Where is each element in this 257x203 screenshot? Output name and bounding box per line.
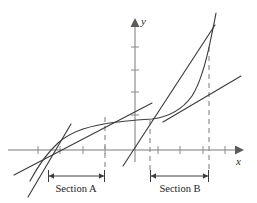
tangent-line-right bbox=[163, 76, 241, 122]
section-b-label: Section B bbox=[159, 183, 200, 194]
secant-lines-figure: Section A Section B y x bbox=[0, 0, 257, 203]
section-a-right-arrowhead bbox=[99, 173, 104, 179]
section-b-left-arrowhead bbox=[151, 173, 156, 179]
dashed-guides bbox=[105, 47, 209, 170]
section-a-left-arrowhead bbox=[49, 173, 54, 179]
y-axis-arrowhead bbox=[131, 18, 140, 27]
section-a-annotation: Section A bbox=[49, 170, 105, 194]
function-curve bbox=[30, 13, 216, 181]
section-b-right-arrowhead bbox=[203, 173, 208, 179]
section-b-annotation: Section B bbox=[151, 170, 209, 194]
figure-canvas: Section A Section B y x bbox=[0, 0, 257, 203]
secant-line-section-b bbox=[123, 25, 215, 166]
x-axis-arrowhead bbox=[235, 146, 244, 155]
section-a-label: Section A bbox=[55, 183, 97, 194]
secant-line-section-a bbox=[14, 103, 152, 175]
y-axis-group bbox=[131, 18, 140, 162]
y-axis-label: y bbox=[140, 15, 146, 27]
x-axis-label: x bbox=[235, 155, 241, 167]
